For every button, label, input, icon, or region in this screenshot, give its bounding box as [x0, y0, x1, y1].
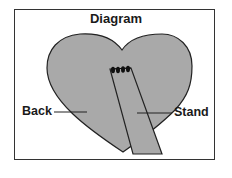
stand-label: Stand: [174, 105, 209, 119]
diagram-drawing: [0, 0, 232, 178]
back-label: Back: [22, 104, 52, 118]
